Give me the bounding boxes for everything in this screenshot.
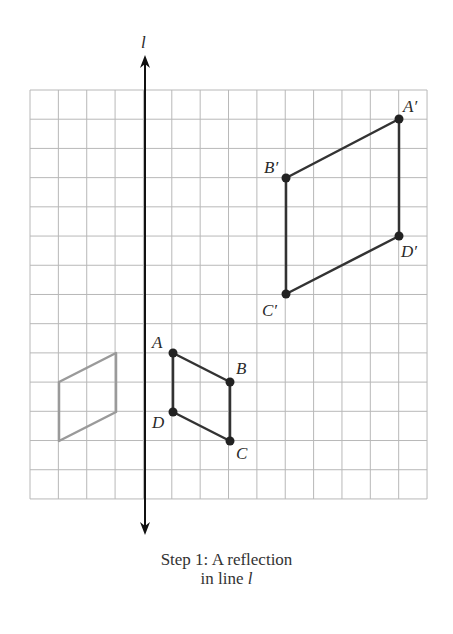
vertex-point (282, 174, 291, 183)
caption-line-2: in line l (0, 569, 453, 588)
line-of-reflection-l (140, 55, 150, 535)
vertex-label: B (236, 359, 247, 378)
vertex-point (169, 349, 178, 358)
caption: Step 1: A reflection in line l (0, 550, 453, 588)
vertex-label: C′ (262, 301, 277, 320)
line-label-l: l (141, 33, 146, 52)
vertex-label: D (151, 413, 165, 432)
polygon-outline (173, 353, 230, 441)
vertex-point (226, 378, 235, 387)
vertex-label: A (151, 333, 163, 352)
polygon-outline (59, 353, 116, 441)
vertex-point (282, 290, 291, 299)
vertex-label: D′ (400, 242, 417, 261)
vertex-point (395, 232, 404, 241)
vertex-label: A′ (402, 97, 417, 116)
vertex-label: B′ (264, 158, 278, 177)
caption-line-1: Step 1: A reflection (0, 550, 453, 569)
transformation-diagram: ABCD A′B′C′D′ l (0, 0, 453, 634)
reflected-parallelogram (59, 353, 116, 441)
vertex-point (169, 408, 178, 417)
vertex-point (226, 437, 235, 446)
vertex-label: C (236, 444, 248, 463)
